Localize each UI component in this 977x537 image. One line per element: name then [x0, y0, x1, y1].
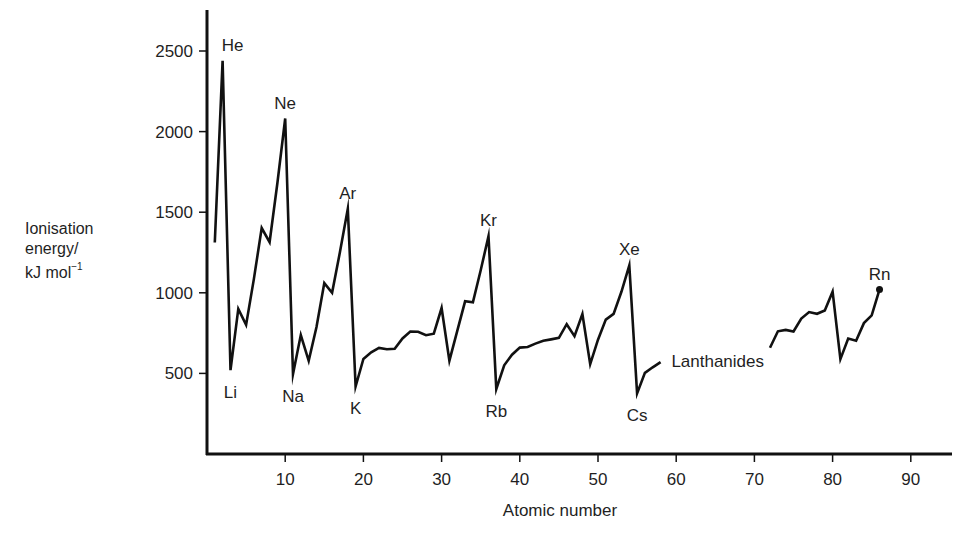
- axes: [206, 10, 952, 455]
- x-ticks: 102030405060708090: [276, 454, 921, 489]
- x-tick-label: 90: [901, 470, 920, 489]
- element-label-rn: Rn: [869, 265, 891, 284]
- element-label-ar: Ar: [339, 184, 356, 203]
- x-tick-label: 10: [276, 470, 295, 489]
- y-tick-label: 1500: [155, 203, 193, 222]
- element-label-xe: Xe: [619, 240, 640, 259]
- y-tick-label: 2000: [155, 123, 193, 142]
- element-label-ne: Ne: [274, 94, 296, 113]
- element-label-he: He: [222, 36, 244, 55]
- element-label-kr: Kr: [480, 211, 497, 230]
- element-label-rb: Rb: [485, 402, 507, 421]
- x-tick-label: 70: [745, 470, 764, 489]
- element-annotations: HeNeArKrXeRnLiNaKRbCsLanthanides: [222, 36, 891, 426]
- ionisation-energy-line: [770, 290, 880, 360]
- element-label-cs: Cs: [627, 406, 648, 425]
- element-label-li: Li: [224, 383, 237, 402]
- x-tick-label: 80: [823, 470, 842, 489]
- element-label-k: K: [350, 399, 362, 418]
- x-tick-label: 30: [432, 470, 451, 489]
- data-series: [215, 61, 883, 394]
- y-tick-label: 500: [165, 364, 193, 383]
- y-tick-label: 2500: [155, 42, 193, 61]
- element-label-na: Na: [282, 387, 304, 406]
- y-ticks: 5001000150020002500: [155, 42, 207, 383]
- x-axis-title: Atomic number: [503, 501, 618, 520]
- y-tick-label: 1000: [155, 284, 193, 303]
- x-tick-label: 40: [510, 470, 529, 489]
- x-tick-label: 20: [354, 470, 373, 489]
- x-tick-label: 50: [589, 470, 608, 489]
- ionisation-energy-chart: 5001000150020002500 102030405060708090 H…: [0, 0, 977, 537]
- element-label-lanthanides: Lanthanides: [671, 352, 764, 371]
- end-point-marker: [876, 286, 883, 293]
- x-tick-label: 60: [667, 470, 686, 489]
